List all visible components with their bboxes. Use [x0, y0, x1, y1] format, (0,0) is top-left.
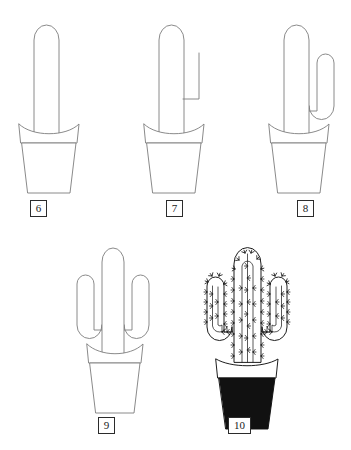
step-9-figure	[62, 232, 172, 432]
step-panel-9	[62, 232, 172, 437]
cactus-right-arm-guide	[183, 53, 199, 99]
step-panel-8	[256, 10, 351, 220]
step-10-figure	[190, 232, 305, 432]
step-7-figure	[131, 10, 241, 210]
step-panel-10	[190, 232, 305, 437]
step-label-8: 8	[297, 200, 314, 217]
tutorial-sheet: 6 7 8	[0, 0, 351, 450]
step-label-9: 9	[98, 417, 115, 434]
pot-body	[22, 143, 76, 193]
cactus-right-arm	[309, 54, 334, 120]
step-6-figure	[6, 10, 116, 210]
cactus-main-stem	[284, 25, 309, 140]
pot-body	[272, 143, 326, 193]
cactus-right-arm	[124, 275, 149, 339]
pot-body	[147, 143, 201, 193]
cactus-main-stem	[34, 25, 59, 140]
step-label-7: 7	[166, 200, 183, 217]
cactus-finished	[204, 248, 290, 429]
cactus-main-stem	[102, 248, 124, 360]
step-8-figure	[256, 10, 351, 210]
cactus-main-stem	[159, 25, 184, 140]
step-label-10: 10	[228, 417, 251, 434]
cactus-left-arm	[77, 275, 102, 339]
step-panel-6	[6, 10, 116, 220]
pot-body	[90, 363, 140, 413]
step-label-6: 6	[30, 200, 47, 217]
step-panel-7	[131, 10, 241, 220]
